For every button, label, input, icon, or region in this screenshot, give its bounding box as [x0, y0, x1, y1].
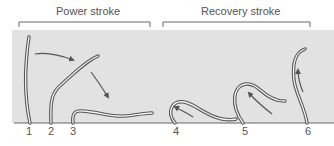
stage-label-4: 4 — [173, 125, 179, 137]
recovery-stroke-bracket — [163, 22, 310, 27]
stage-label-3: 3 — [70, 125, 76, 137]
background-panel — [12, 30, 334, 123]
stage-label-5: 5 — [242, 125, 248, 137]
power-stroke-bracket — [19, 22, 150, 27]
stage-label-1: 1 — [26, 125, 32, 137]
stage-label-6: 6 — [305, 125, 311, 137]
stage-label-2: 2 — [48, 125, 54, 137]
